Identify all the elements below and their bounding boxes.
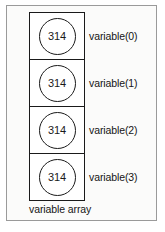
element-label-1: variable(1) <box>89 59 157 106</box>
element-labels-column: variable(0) variable(1) variable(2) vari… <box>89 12 157 201</box>
value-circle-0: 314 <box>39 18 76 55</box>
array-cell-2: 314 <box>30 107 84 154</box>
value-text-1: 314 <box>48 78 66 89</box>
variable-array-box: 314 314 314 314 <box>29 12 85 201</box>
value-circle-1: 314 <box>39 65 76 102</box>
figure-frame: 314 314 314 314 variable(0) var <box>6 5 157 221</box>
array-cell-0: 314 <box>30 13 84 60</box>
element-label-2: variable(2) <box>89 107 157 154</box>
figure-screenshot: 314 314 314 314 variable(0) var <box>0 0 165 232</box>
value-circle-2: 314 <box>39 112 76 149</box>
value-text-2: 314 <box>48 125 66 136</box>
array-cell-3: 314 <box>30 154 84 200</box>
element-label-0: variable(0) <box>89 12 157 59</box>
array-cell-1: 314 <box>30 60 84 107</box>
value-text-3: 314 <box>48 172 66 183</box>
value-text-0: 314 <box>48 31 66 42</box>
value-circle-3: 314 <box>39 159 76 196</box>
array-caption: variable array <box>29 203 91 215</box>
element-label-3: variable(3) <box>89 154 157 201</box>
